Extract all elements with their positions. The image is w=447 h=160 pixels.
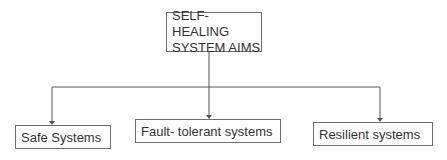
child-node-label: Resilient systems (319, 127, 420, 142)
child-node-label: Fault- tolerant systems (141, 124, 273, 139)
root-node-self-healing-system-aims: SELF- HEALING SYSTEM AIMS (166, 12, 262, 52)
child-node-safe-systems: Safe Systems (15, 125, 111, 149)
child-node-resilient-systems: Resilient systems (313, 122, 433, 146)
child-node-fault-tolerant-systems: Fault- tolerant systems (135, 119, 281, 143)
child-node-label: Safe Systems (21, 130, 101, 145)
root-node-line1: SELF- HEALING (172, 8, 261, 40)
root-node-line2: SYSTEM AIMS (172, 40, 260, 56)
